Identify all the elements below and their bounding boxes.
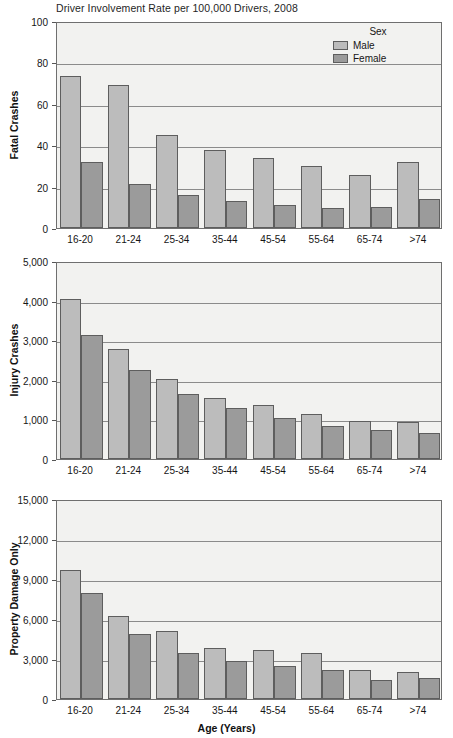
y-axis-injury-crashes: 01,0002,0003,0004,0005,000 [0,262,56,460]
y-axis-tick-label: 0 [42,455,48,466]
bar-3544-female [226,201,248,228]
bar-4554-female [274,666,296,699]
legend-item-female: Female [333,53,433,64]
y-axis-fatal-crashes: 020406080100 [0,22,56,229]
x-axis-title: Age (Years) [0,722,453,734]
bar-74-male [397,672,419,699]
bar-74-male [397,162,419,228]
bar-2534-male [156,379,178,459]
x-axis-tick-label: 65-74 [357,234,383,245]
bar-4554-male [253,405,275,459]
y-axis-tick-label: 6,000 [23,615,48,626]
y-axis-tick-label: 4,000 [23,296,48,307]
x-axis-tick-label: 45-54 [260,705,286,716]
x-axis-tick-label: 35-44 [212,234,238,245]
legend-title: Sex [347,26,409,37]
bar-2124-male [108,349,130,459]
y-axis-tick-label: 2,000 [23,375,48,386]
x-axis-tick-label: >74 [409,465,426,476]
chart-panel-injury-crashes: Injury Crashes 01,0002,0003,0004,0005,00… [0,250,453,490]
bar-74-female [419,433,441,459]
y-axis-tick-label: 60 [37,99,48,110]
bar-6574-female [371,207,393,228]
bar-2534-male [156,631,178,699]
bar-2534-male [156,135,178,228]
bar-1620-male [60,570,82,699]
y-axis-tick-label: 0 [42,695,48,706]
plot-area-injury-crashes [56,262,442,460]
y-axis-tick-label: 12,000 [17,535,48,546]
bar-1620-male [60,76,82,228]
x-axis-tick-label: 55-64 [309,465,335,476]
bar-6574-female [371,680,393,699]
y-axis-tick-label: 100 [31,17,48,28]
plot-area-property-damage-only [56,500,442,700]
y-axis-tick-label: 3,000 [23,655,48,666]
bar-5564-male [301,166,323,228]
bar-5564-female [322,426,344,459]
bar-5564-female [322,208,344,228]
y-axis-tick-label: 5,000 [23,257,48,268]
bar-74-male [397,422,419,459]
bar-74-female [419,678,441,699]
bar-2124-male [108,616,130,699]
x-axis-tick-label: 25-34 [164,465,190,476]
y-axis-tick-label: 15,000 [17,495,48,506]
bar-2534-female [178,653,200,699]
y-axis-tick-label: 40 [37,141,48,152]
bar-4554-female [274,205,296,228]
y-axis-tick-label: 0 [42,224,48,235]
y-axis-tick-label: 80 [37,58,48,69]
x-axis-tick-label: 21-24 [116,234,142,245]
bar-4554-female [274,418,296,459]
x-axis-tick-label: >74 [409,705,426,716]
bar-2534-female [178,394,200,459]
bar-4554-male [253,158,275,228]
y-axis-tick-mark [52,700,56,701]
legend-label-male: Male [353,40,375,51]
figure-root: Driver Involvement Rate per 100,000 Driv… [0,0,453,738]
x-axis-tick-label: 65-74 [357,465,383,476]
y-axis-tick-mark [52,229,56,230]
x-axis-tick-label: 45-54 [260,465,286,476]
bar-1620-male [60,299,82,459]
bar-1620-female [81,593,103,699]
bar-74-female [419,199,441,228]
figure-title: Driver Involvement Rate per 100,000 Driv… [56,2,298,14]
y-axis-property-damage-only: 03,0006,0009,00012,00015,000 [0,500,56,700]
bar-6574-male [349,421,371,459]
bar-2534-female [178,195,200,228]
bar-2124-female [129,370,151,459]
bar-5564-male [301,653,323,699]
bar-3544-male [204,398,226,459]
bar-3544-female [226,408,248,459]
bar-1620-female [81,162,103,228]
x-axis-tick-label: 35-44 [212,705,238,716]
bar-series-pdo [57,501,441,699]
bar-1620-female [81,335,103,459]
x-axis-tick-label: 55-64 [309,705,335,716]
bar-2124-female [129,634,151,699]
bar-3544-male [204,150,226,228]
bar-6574-male [349,670,371,699]
legend: Sex Male Female [333,26,433,64]
bar-4554-male [253,650,275,699]
x-axis-tick-label: 55-64 [309,234,335,245]
chart-panel-fatal-crashes: Driver Involvement Rate per 100,000 Driv… [0,0,453,250]
x-axis-tick-label: 16-20 [67,234,93,245]
y-axis-tick-mark [52,460,56,461]
bar-2124-male [108,85,130,228]
chart-panel-property-damage-only: Property Damage Only 03,0006,0009,00012,… [0,490,453,738]
bar-series-injury [57,263,441,459]
x-axis-tick-label: >74 [409,234,426,245]
x-axis-tick-label: 25-34 [164,234,190,245]
bar-3544-female [226,661,248,699]
bar-2124-female [129,184,151,228]
bar-6574-female [371,430,393,459]
legend-item-male: Male [333,40,433,51]
x-axis-tick-label: 21-24 [116,705,142,716]
y-axis-tick-label: 20 [37,182,48,193]
legend-swatch-male-icon [333,41,348,50]
x-axis-tick-label: 21-24 [116,465,142,476]
x-axis-tick-label: 45-54 [260,234,286,245]
